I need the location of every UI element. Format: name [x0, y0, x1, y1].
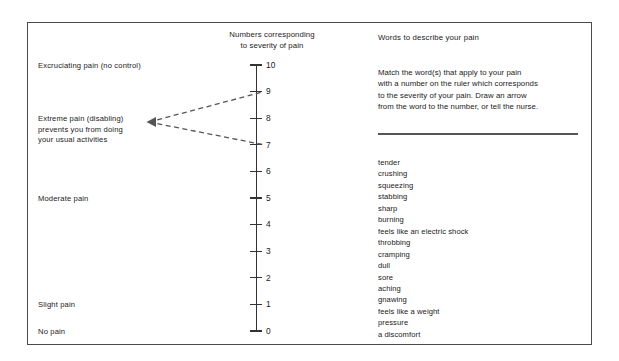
- pain-word-item[interactable]: feels like a weight: [378, 306, 468, 317]
- ruler-tick-label-6[interactable]: 6: [266, 167, 271, 175]
- pain-word-item[interactable]: burning: [378, 214, 468, 225]
- ruler-tick-6: [250, 171, 262, 172]
- severity-label-3: Slight pain: [38, 300, 75, 311]
- words-instructions-text: Match the word(s) that apply to your pai…: [378, 67, 593, 112]
- severity-label-1: Extreme pain (disabling) prevents you fr…: [38, 114, 123, 146]
- ruler-tick-label-0[interactable]: 0: [266, 327, 271, 335]
- pain-word-item[interactable]: sharp: [378, 203, 468, 214]
- words-column-heading: Words to describe your pain: [378, 33, 479, 42]
- pain-word-item[interactable]: sore: [378, 272, 468, 283]
- pain-word-item[interactable]: throbbing: [378, 237, 468, 248]
- ruler-tick-label-2[interactable]: 2: [266, 274, 271, 282]
- pain-word-item[interactable]: dull: [378, 260, 468, 271]
- pain-word-item[interactable]: pressure: [378, 317, 468, 328]
- ruler-header-line-2: to severity of pain: [196, 41, 348, 52]
- ruler-tick-label-10[interactable]: 10: [266, 61, 276, 69]
- pain-word-item[interactable]: aching: [378, 283, 468, 294]
- ruler-tick-label-3[interactable]: 3: [266, 247, 271, 255]
- severity-label-2: Moderate pain: [38, 194, 89, 205]
- ruler-tick-label-5[interactable]: 5: [266, 194, 271, 202]
- ruler-tick-3: [250, 251, 262, 252]
- pain-word-item[interactable]: gnawing: [378, 294, 468, 305]
- ruler-tick-label-1[interactable]: 1: [266, 300, 271, 308]
- pain-word-item[interactable]: feels like an electric shock: [378, 226, 468, 237]
- pain-word-item[interactable]: squeezing: [378, 180, 468, 191]
- ruler-header-line-1: Numbers corresponding: [196, 30, 348, 41]
- pain-word-item[interactable]: a discomfort: [378, 329, 468, 340]
- pain-word-item[interactable]: stabbing: [378, 191, 468, 202]
- ruler-tick-9: [250, 91, 262, 92]
- severity-label-4: No pain: [38, 327, 65, 338]
- ruler-column-header: Numbers corresponding to severity of pai…: [196, 30, 348, 51]
- pain-words-list: tendercrushingsqueezingstabbingsharpburn…: [378, 157, 468, 340]
- pain-word-item[interactable]: crushing: [378, 168, 468, 179]
- words-divider-line: [378, 133, 578, 135]
- ruler-tick-5: [250, 197, 262, 198]
- ruler-tick-2: [250, 277, 262, 278]
- pain-scale-diagram: Numbers corresponding to severity of pai…: [0, 0, 619, 361]
- severity-label-0: Excruciating pain (no control): [38, 61, 141, 72]
- ruler-tick-0: [250, 330, 262, 331]
- ruler-tick-label-7[interactable]: 7: [266, 141, 271, 149]
- ruler-tick-8: [250, 118, 262, 119]
- ruler-tick-10: [250, 64, 262, 65]
- pain-word-item[interactable]: cramping: [378, 249, 468, 260]
- ruler-tick-label-8[interactable]: 8: [266, 114, 271, 122]
- ruler-tick-4: [250, 224, 262, 225]
- ruler-tick-label-9[interactable]: 9: [266, 87, 271, 95]
- ruler-tick-7: [250, 144, 262, 145]
- ruler-tick-label-4[interactable]: 4: [266, 220, 271, 228]
- pain-word-item[interactable]: tender: [378, 157, 468, 168]
- ruler-tick-1: [250, 304, 262, 305]
